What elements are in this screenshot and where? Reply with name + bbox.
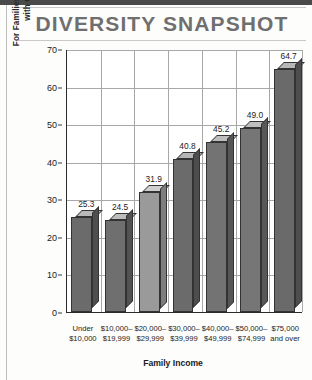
y-axis-tick-label: 70 [47,46,57,55]
page-left-rule [6,5,7,380]
bar-side-face [227,132,234,309]
bar-front-face [240,128,261,312]
bar-side-face [160,182,167,309]
y-axis-ticks: 010203040506070 [44,50,62,313]
y-axis-tick-label: 50 [47,121,57,130]
bar-side-face [261,117,268,308]
bar-side-face [126,209,133,308]
y-axis-tick-label: 60 [47,83,57,92]
bar-front-face [139,192,160,312]
bar-value-label: 25.3 [72,200,100,209]
gridline-vertical [302,50,303,312]
y-axis-title: For Families with Children 18 to 24 Year… [9,0,35,74]
y-axis-tick-mark [58,87,62,88]
gridline-vertical [236,50,237,312]
y-axis-tick-label: 0 [52,309,57,318]
bar-front-face [274,69,295,312]
y-axis-tick-label: 20 [47,233,57,242]
bar-value-label: 40.8 [174,142,202,151]
bar-1 [71,210,99,312]
page-title: DIVERSITY SNAPSHOT [18,12,306,36]
y-axis-tick-mark [58,200,62,201]
bar-value-label: 24.5 [106,203,134,212]
chart-plot-area: 25.324.531.940.845.249.064.7 [66,50,302,313]
bar-3 [139,185,167,312]
y-axis-tick-mark [58,237,62,238]
bar-6 [240,121,268,312]
gridline-vertical [269,50,270,312]
chart-plot-wrapper: 010203040506070 25.324.531.940.845.249.0… [44,50,302,335]
x-axis-title: Family Income [44,358,302,368]
y-axis-tick-mark [58,125,62,126]
bar-value-label: 49.0 [241,111,269,120]
gridline-vertical [168,50,169,312]
bar-side-face [193,148,200,308]
bar-front-face [173,159,194,312]
page-root: DIVERSITY SNAPSHOT For Families with Chi… [0,0,312,380]
bar-5 [206,135,234,312]
bar-value-label: 45.2 [207,125,235,134]
title-rule-top [18,7,306,8]
y-axis-tick-label: 30 [47,196,57,205]
x-axis-label-7: $75,000and over [264,324,306,343]
x-axis-label-line: $75,000 [264,324,306,334]
gridline-horizontal [67,50,302,51]
bar-value-label: 31.9 [140,175,168,184]
y-axis-tick-label: 40 [47,158,57,167]
page-top-border [0,0,312,5]
bar-front-face [206,142,227,312]
gridline-vertical [101,50,102,312]
y-axis-tick-mark [58,162,62,163]
y-axis-tick-label: 10 [47,271,57,280]
bar-side-face [92,206,99,308]
bar-7 [274,62,302,312]
y-axis-title-line-2: with One or More Children Attending Coll… [22,0,33,21]
x-axis-label-line: and over [264,334,306,344]
bar-side-face [295,58,302,308]
title-block: DIVERSITY SNAPSHOT [18,7,306,41]
y-axis-tick-mark [58,50,62,51]
bar-value-label: 64.7 [275,52,303,61]
bar-front-face [105,220,126,312]
bar-4 [173,152,201,312]
gridline-vertical [134,50,135,312]
bar-front-face [71,217,92,312]
y-axis-title-line-1: For Families with Children 18 to 24 Year… [11,0,22,46]
x-axis-labels: Under$10,000$10,000–$19,999$20,000–$29,9… [66,322,302,348]
gridline-vertical [202,50,203,312]
title-rule-bottom [18,40,306,41]
y-axis-tick-mark [58,313,62,314]
gridline-horizontal [67,88,302,89]
y-axis-tick-mark [58,275,62,276]
bar-2 [105,213,133,312]
